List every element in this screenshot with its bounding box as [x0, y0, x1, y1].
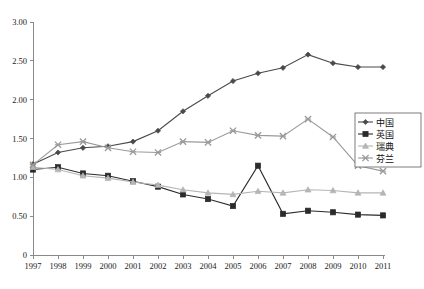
data-point: [355, 212, 360, 217]
x-tick-label: 2002: [150, 261, 167, 271]
legend-marker: [363, 131, 368, 136]
data-point: [280, 133, 286, 139]
x-tick-label: 2007: [275, 261, 292, 271]
data-point: [55, 150, 60, 155]
data-point: [255, 71, 260, 76]
data-point: [155, 149, 161, 155]
x-tick-label: 2004: [200, 261, 218, 271]
y-tick-label: 2.50: [12, 56, 27, 66]
chart-legend: 中国英国瑞典芬兰: [355, 113, 421, 167]
series-中国: [30, 52, 385, 167]
data-point: [330, 134, 336, 140]
data-point: [380, 168, 386, 174]
data-point: [230, 203, 235, 208]
data-point: [180, 192, 185, 197]
data-point: [330, 210, 335, 215]
y-tick-label: 1.00: [12, 172, 27, 182]
y-tick-label: 3.00: [12, 17, 27, 27]
y-tick-label: 0: [23, 250, 27, 260]
y-tick-label: 1.50: [12, 134, 27, 144]
data-point: [380, 213, 385, 218]
data-point: [230, 128, 236, 134]
x-tick-label: 2010: [350, 261, 367, 271]
data-point: [80, 139, 86, 145]
x-tick-label: 2001: [125, 261, 142, 271]
line-chart-figure: 3.002.502.001.501.000.500 19971998199920…: [0, 0, 424, 289]
series-瑞典: [30, 164, 386, 196]
data-point: [55, 142, 61, 148]
data-point: [230, 78, 235, 83]
x-tick-label: 2006: [250, 261, 267, 271]
x-tick-label: 2005: [225, 261, 242, 271]
data-point: [205, 196, 210, 201]
data-point: [355, 64, 360, 69]
x-tick-label: 2011: [375, 261, 392, 271]
legend-label: 英国: [376, 129, 394, 140]
y-axis: 3.002.502.001.501.000.500: [12, 17, 33, 260]
x-tick-label: 2003: [175, 261, 192, 271]
data-point: [255, 132, 261, 138]
data-point: [280, 65, 285, 70]
x-tick-label: 1998: [50, 261, 67, 271]
series-plot-area: [30, 52, 386, 218]
data-point: [280, 211, 285, 216]
x-tick-label: 2009: [325, 261, 342, 271]
data-point: [255, 163, 260, 168]
x-tick-label: 2008: [300, 261, 317, 271]
data-point: [305, 208, 310, 213]
data-point: [130, 149, 136, 155]
data-point: [305, 116, 311, 122]
x-tick-label: 1999: [75, 261, 92, 271]
y-tick-label: 2.00: [12, 95, 27, 105]
y-tick-label: 0.50: [12, 211, 27, 221]
chart-canvas: 3.002.502.001.501.000.500 19971998199920…: [0, 0, 424, 289]
data-point: [130, 139, 135, 144]
x-tick-label: 2000: [100, 261, 117, 271]
data-point: [330, 61, 335, 66]
legend-label: 中国: [376, 117, 394, 128]
data-point: [180, 139, 186, 145]
data-point: [205, 93, 210, 98]
x-axis: 1997199819992000200120022003200420052006…: [25, 255, 392, 271]
legend-label: 瑞典: [376, 141, 394, 152]
x-tick-label: 1997: [25, 261, 42, 271]
data-point: [80, 145, 85, 150]
data-point: [305, 52, 310, 57]
legend-label: 芬兰: [376, 153, 394, 164]
data-point: [380, 64, 385, 69]
data-point: [205, 139, 211, 145]
